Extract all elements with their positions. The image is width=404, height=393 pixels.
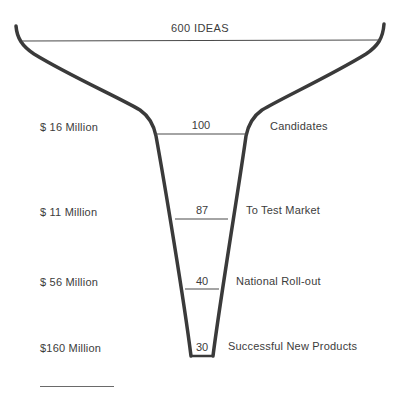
stage-count-successful: 30	[196, 341, 208, 353]
cost-label-test-market: $ 11 Million	[40, 206, 97, 218]
cost-label-national-rollout: $ 56 Million	[40, 276, 98, 288]
footnote-rule	[40, 386, 114, 387]
top-label: 600 IDEAS	[171, 22, 229, 34]
stage-count-test-market: 87	[196, 204, 208, 216]
stage-label-successful: Successful New Products	[228, 340, 357, 352]
stage-count-candidates: 100	[192, 119, 210, 131]
funnel-left-wall	[16, 26, 191, 356]
funnel-shape	[0, 0, 404, 393]
stage-label-national-rollout: National Roll-out	[236, 275, 321, 287]
funnel-right-wall	[213, 24, 384, 356]
stage-count-national-rollout: 40	[196, 275, 208, 287]
cost-label-successful: $160 Million	[40, 342, 101, 354]
stage-label-test-market: To Test Market	[246, 204, 320, 216]
level-line-600	[22, 40, 380, 41]
stage-label-candidates: Candidates	[270, 120, 328, 132]
cost-label-candidates: $ 16 Million	[40, 121, 98, 133]
